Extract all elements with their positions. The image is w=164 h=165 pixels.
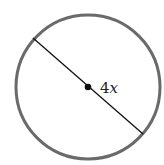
diameter-label: 4x bbox=[100, 79, 119, 97]
center-point bbox=[85, 84, 92, 91]
circle-diagram: 4x bbox=[0, 0, 164, 165]
